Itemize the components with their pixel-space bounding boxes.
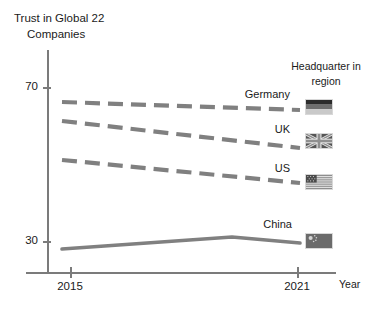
germany-flag [305,99,333,115]
legend-title-line2: region [281,74,371,89]
china-flag [305,233,333,249]
series-line-china [62,237,300,249]
uk-flag [305,133,333,149]
series-label-china: China [200,218,292,230]
series-label-germany: Germany [200,88,290,100]
series-label-uk: UK [200,123,290,135]
chart-container: Trust in Global 22 Companies 70 30 2015 … [0,0,371,309]
plot-area [0,0,371,309]
us-flag [305,174,333,190]
series-line-germany [62,102,300,110]
legend-title: Headquarter in [281,59,371,74]
series-label-us: US [200,162,290,174]
